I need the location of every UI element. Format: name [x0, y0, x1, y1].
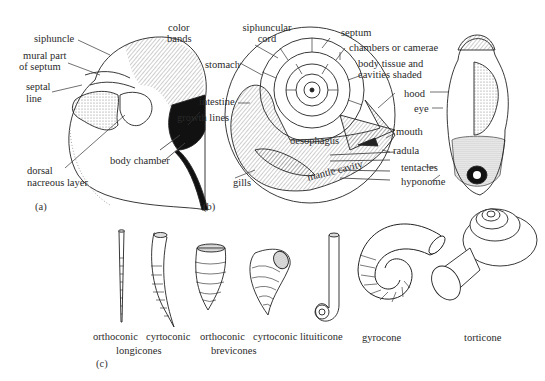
panel-label-c: (c) — [96, 358, 108, 369]
label-orthoconic-brevicone: orthoconic — [200, 331, 245, 342]
label-growth-lines: growth lines — [177, 112, 229, 123]
label-hyponome: hyponome — [401, 176, 445, 187]
orthoconic-longicone-drawing — [119, 230, 125, 322]
panel-label-a: (a) — [35, 201, 47, 212]
label-stomach: stomach — [205, 59, 240, 70]
lituiticone-drawing — [315, 233, 339, 321]
label-longicones: longicones — [116, 345, 162, 356]
gyrocone-drawing — [358, 224, 448, 302]
label-tentacles: tentacles — [401, 162, 438, 173]
label-lituiticone: lituiticone — [300, 331, 343, 342]
label-nacreous-layer: nacreous layer — [27, 177, 88, 188]
label-line: line — [26, 93, 42, 104]
label-eye: eye — [414, 103, 429, 114]
panel-c-shell-forms — [119, 209, 538, 327]
label-septal: septal — [26, 81, 51, 92]
label-mouth: mouth — [396, 126, 423, 137]
cyrtoconic-longicone-drawing — [151, 233, 174, 328]
label-mural-part: mural part — [23, 50, 66, 61]
label-cavities-shaded: cavities shaded — [358, 69, 422, 80]
label-gills: gills — [233, 177, 251, 188]
panel-label-b: (b) — [203, 201, 215, 212]
label-gyrocone: gyrocone — [362, 332, 401, 343]
label-cyrtoconic-brevicone: cyrtoconic — [253, 331, 297, 342]
orthoconic-brevicone-drawing — [195, 244, 226, 310]
label-body-tissue: body tissue and — [358, 58, 423, 69]
label-oesophagus: oesophagus — [290, 135, 339, 146]
label-color: color — [168, 22, 190, 33]
label-hood: hood — [404, 88, 425, 99]
label-chambers: chambers or camerae — [349, 42, 438, 53]
label-dorsal: dorsal — [27, 165, 53, 176]
label-radula: radula — [393, 145, 419, 156]
label-intestine: intestine — [199, 96, 235, 107]
label-septum: septum — [341, 27, 371, 38]
label-cord: cord — [232, 33, 302, 44]
label-cyrtoconic-longicone: cyrtoconic — [146, 331, 190, 342]
label-of-septum: of septum — [19, 61, 61, 72]
torticone-drawing — [426, 209, 537, 305]
label-orthoconic-longicone: orthoconic — [93, 331, 138, 342]
diagram-canvas — [0, 0, 545, 381]
cyrtoconic-brevicone-drawing — [250, 249, 291, 315]
label-bands: bands — [167, 33, 192, 44]
panel-a-shell — [69, 37, 208, 210]
label-body-chamber: body chamber — [110, 155, 170, 166]
panel-b-frontal-view — [447, 35, 508, 195]
label-brevicones: brevicones — [211, 345, 256, 356]
label-torticone: torticone — [464, 332, 501, 343]
label-siphuncular: siphuncular — [232, 22, 302, 33]
label-siphuncle: siphuncle — [34, 33, 74, 44]
